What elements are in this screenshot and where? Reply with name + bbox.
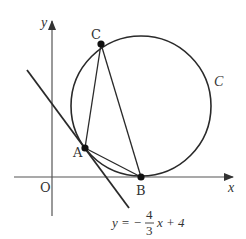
origin-label: O [40, 180, 51, 195]
point-a [81, 144, 88, 151]
segment-ca [85, 44, 101, 148]
segment-ab [85, 148, 141, 177]
segment-cb [101, 44, 141, 177]
equation-suffix: x + 4 [156, 215, 185, 230]
x-axis-label: x [227, 180, 235, 195]
point-c-label: C [91, 27, 101, 42]
point-b [137, 173, 144, 180]
y-axis-label: y [39, 15, 48, 30]
line-equation: y = − 4 3 x + 4 [110, 207, 185, 238]
equation-prefix: y = − [110, 215, 142, 230]
equation-numerator: 4 [146, 207, 153, 222]
point-b-label: B [136, 183, 146, 198]
point-a-label: A [72, 145, 83, 160]
equation-denominator: 3 [146, 223, 153, 238]
geometry-diagram: y x O A B C C y = − 4 3 x + 4 [0, 0, 246, 239]
circle-label: C [214, 74, 224, 89]
